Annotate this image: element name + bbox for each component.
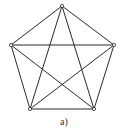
vertex-bottom-left (28, 107, 31, 110)
edge-right-bottom-left (30, 45, 114, 109)
edge-top-bottom-left (30, 6, 62, 109)
edge-left-bottom-right (11, 45, 94, 109)
vertex-bottom-right (92, 107, 95, 110)
edge-top-bottom-right (62, 6, 94, 109)
edge-top-left (11, 6, 62, 45)
figure-caption: a) (0, 116, 128, 128)
edge-right-bottom-right (94, 45, 114, 109)
edges (11, 6, 114, 109)
vertex-right (112, 43, 115, 46)
edge-top-right (62, 6, 114, 45)
vertex-left (9, 43, 12, 46)
complete-graph-k5 (0, 0, 128, 133)
vertex-top (60, 4, 63, 7)
edge-left-bottom-left (11, 45, 30, 109)
